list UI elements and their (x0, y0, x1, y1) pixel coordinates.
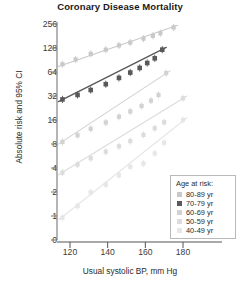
legend-item-label: 40-49 yr (186, 226, 213, 235)
data-point-marker (117, 115, 121, 119)
data-point-marker (181, 118, 185, 122)
data-point-marker (89, 156, 93, 160)
data-point-marker (60, 97, 65, 102)
data-point-marker (162, 120, 166, 124)
data-point-marker (75, 204, 79, 208)
data-point-marker (104, 182, 108, 186)
legend-item-label: 70-79 yr (186, 199, 213, 208)
data-point-marker (181, 96, 185, 100)
data-point-marker (60, 171, 64, 175)
data-point-marker (128, 109, 132, 113)
data-point-marker (149, 99, 153, 103)
legend-item-50-59-yr[interactable]: 50-59 yr (175, 217, 232, 226)
data-point-marker (88, 88, 93, 93)
data-point-marker (89, 127, 93, 131)
data-point-marker (152, 56, 157, 61)
legend-title: Age at risk: (176, 179, 232, 188)
data-point-marker (117, 144, 121, 148)
legend-swatch-icon (177, 228, 182, 233)
data-point-marker (158, 31, 162, 35)
data-point-marker (60, 140, 64, 144)
data-point-marker (160, 47, 165, 52)
data-point-marker (128, 139, 132, 143)
data-point-marker (141, 161, 145, 165)
data-point-marker (164, 71, 168, 75)
data-point-marker (74, 57, 78, 61)
legend-rows: 80-89 yr70-79 yr60-69 yr50-59 yr40-49 yr (175, 190, 232, 235)
legend-item-label: 80-89 yr (186, 190, 213, 199)
legend-swatch-icon (177, 210, 182, 215)
data-point-marker (145, 61, 150, 66)
data-point-marker (60, 62, 64, 66)
data-point-marker (156, 93, 160, 97)
legend-swatch-icon (177, 201, 182, 206)
trend-line (58, 47, 166, 101)
legend-item-60-69-yr[interactable]: 60-69 yr (175, 208, 232, 217)
data-point-marker (75, 93, 80, 98)
series-80-89-yr (58, 24, 177, 68)
data-point-marker (104, 150, 108, 154)
data-point-marker (128, 40, 132, 44)
data-point-marker (151, 34, 155, 38)
data-point-marker (128, 165, 132, 169)
data-point-marker (60, 216, 64, 220)
legend: Age at risk: 80-89 yr70-79 yr60-69 yr50-… (170, 175, 236, 239)
coronary-disease-mortality-chart: Coronary Disease Mortality Absolute risk… (0, 0, 240, 289)
legend-item-40-49-yr[interactable]: 40-49 yr (175, 226, 232, 235)
data-point-marker (128, 70, 133, 75)
series-70-79-yr (58, 46, 166, 103)
data-point-marker (103, 82, 108, 87)
legend-item-label: 60-69 yr (186, 208, 213, 217)
legend-item-80-89-yr[interactable]: 80-89 yr (175, 190, 232, 199)
data-point-marker (171, 25, 175, 29)
data-point-marker (89, 190, 93, 194)
data-point-marker (104, 120, 108, 124)
plot-canvas (0, 0, 240, 289)
data-point-marker (153, 126, 157, 130)
data-point-marker (117, 173, 121, 177)
legend-swatch-icon (177, 192, 182, 197)
legend-item-label: 50-59 yr (186, 217, 213, 226)
data-point-marker (75, 133, 79, 137)
legend-item-70-79-yr[interactable]: 70-79 yr (175, 199, 232, 208)
trend-line (58, 71, 170, 144)
data-point-marker (139, 104, 143, 108)
data-point-marker (162, 141, 166, 145)
legend-swatch-icon (177, 219, 182, 224)
data-point-marker (75, 163, 79, 167)
data-point-marker (153, 151, 157, 155)
data-point-marker (117, 43, 121, 47)
data-point-marker (117, 76, 122, 81)
data-point-marker (89, 52, 93, 56)
data-point-marker (104, 48, 108, 52)
data-point-marker (137, 66, 142, 71)
series-60-69-yr (58, 69, 170, 145)
data-point-marker (141, 36, 145, 40)
data-point-marker (141, 133, 145, 137)
